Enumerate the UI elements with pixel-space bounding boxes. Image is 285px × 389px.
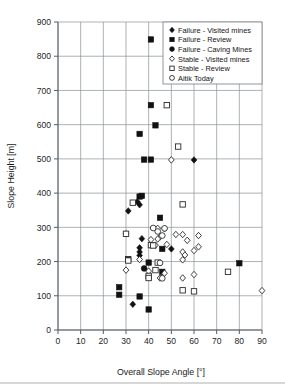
data-point-marker	[184, 237, 190, 244]
legend-item-label: Failure - Review	[178, 35, 232, 44]
data-point-marker	[137, 131, 142, 136]
legend-item[interactable]: Failure - Review	[170, 35, 232, 44]
data-point-marker	[225, 269, 230, 274]
data-point-marker	[164, 102, 169, 107]
data-point-marker	[153, 123, 158, 128]
data-point-marker	[130, 200, 135, 205]
data-point-marker	[173, 231, 179, 238]
chart-legend[interactable]: Failure - Visited minesFailure - ReviewF…	[163, 22, 262, 84]
legend-item[interactable]: Stable - Visited mines	[170, 55, 250, 64]
x-tick-label: 40	[144, 336, 154, 346]
data-point-marker	[117, 292, 122, 297]
legend-item[interactable]: Stable - Review	[170, 64, 231, 73]
x-tick-label: 0	[56, 336, 61, 346]
y-tick-label: 700	[37, 86, 52, 96]
data-point-marker	[191, 247, 197, 254]
legend-item[interactable]: Failure - Visited mines	[170, 26, 252, 35]
data-point-marker	[159, 275, 165, 281]
data-point-marker	[137, 294, 142, 299]
data-point-marker	[130, 301, 136, 308]
data-point-marker	[148, 102, 153, 107]
scatter-chart-figure: 0102030405060708090010020030040050060070…	[0, 0, 285, 389]
data-point-marker	[139, 193, 144, 198]
data-point-marker	[141, 157, 146, 162]
data-point-marker	[162, 226, 168, 232]
data-point-marker	[139, 235, 145, 242]
data-point-marker	[180, 231, 186, 238]
data-point-marker	[191, 289, 196, 294]
data-point-marker	[123, 267, 129, 274]
y-tick-label: 300	[37, 223, 52, 233]
data-point-marker	[157, 215, 162, 220]
legend-marker-icon	[170, 37, 174, 41]
x-tick-label: 10	[76, 336, 86, 346]
data-point-marker	[151, 243, 156, 248]
legend-marker-icon	[170, 47, 175, 52]
y-tick-label: 500	[37, 154, 52, 164]
y-tick-label: 100	[37, 291, 52, 301]
x-axis-title: Overall Slope Angle [°]	[117, 367, 205, 377]
data-point-marker	[191, 271, 197, 278]
data-point-marker	[196, 232, 202, 239]
data-point-marker	[146, 307, 151, 312]
x-tick-label: 20	[99, 336, 109, 346]
x-tick-label: 50	[167, 336, 177, 346]
data-point-marker	[146, 260, 151, 265]
data-point-marker	[153, 267, 158, 272]
data-point-marker	[259, 287, 265, 294]
data-point-marker	[180, 275, 186, 282]
legend-marker-icon	[170, 66, 174, 70]
legend-item-label: Stable - Review	[178, 64, 230, 73]
data-point-marker	[123, 231, 128, 236]
x-tick-label: 90	[257, 336, 267, 346]
data-point-marker	[180, 202, 185, 207]
x-tick-label: 80	[235, 336, 245, 346]
y-tick-label: 0	[46, 325, 51, 335]
legend-marker-icon	[170, 75, 175, 80]
chart-canvas: 0102030405060708090010020030040050060070…	[0, 0, 285, 389]
legend-item-label: Failure - Visited mines	[178, 26, 251, 35]
y-tick-label: 800	[37, 51, 52, 61]
data-point-marker	[126, 258, 131, 263]
data-point-marker	[191, 157, 197, 164]
y-axis-title: Slope Height [m]	[6, 143, 16, 208]
data-point-marker	[159, 233, 165, 239]
legend-item-label: Stable - Visited mines	[178, 55, 250, 64]
data-point-marker	[146, 275, 151, 280]
data-point-marker	[237, 261, 242, 266]
data-point-marker	[148, 37, 153, 42]
y-tick-label: 400	[37, 188, 52, 198]
x-tick-label: 60	[189, 336, 199, 346]
data-point-marker	[168, 157, 174, 164]
series-0	[125, 157, 196, 308]
data-point-marker	[117, 285, 122, 290]
legend-item-label: Aitik Today	[178, 74, 214, 83]
x-tick-label: 30	[121, 336, 131, 346]
legend-item[interactable]: Failure - Caving Mines	[170, 45, 253, 54]
data-point-marker	[180, 288, 185, 293]
data-point-marker	[196, 244, 202, 251]
data-point-marker	[148, 157, 153, 162]
legend-item-label: Failure - Caving Mines	[178, 45, 252, 54]
y-tick-label: 600	[37, 120, 52, 130]
y-tick-label: 900	[37, 17, 52, 27]
x-tick-label: 70	[212, 336, 222, 346]
y-tick-label: 200	[37, 257, 52, 267]
data-point-marker	[160, 246, 165, 251]
data-point-marker	[175, 144, 180, 149]
data-point-marker	[157, 260, 163, 266]
data-point-marker	[168, 246, 174, 253]
